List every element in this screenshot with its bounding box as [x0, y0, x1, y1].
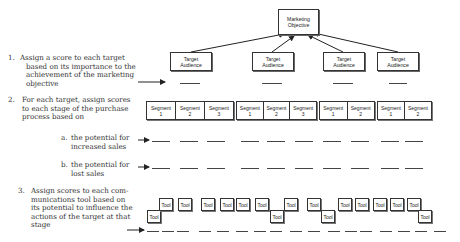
segment-cell: Segment1	[320, 102, 348, 119]
tool-box: Tool	[338, 198, 352, 211]
tool-label: Tool	[340, 202, 349, 208]
tool-box: Tool	[390, 198, 404, 211]
tool-label: Tool	[257, 202, 266, 208]
score-blank-ta-3[interactable]	[333, 83, 353, 84]
score-blank-ta-2[interactable]	[262, 83, 282, 84]
blank-3[interactable]	[162, 231, 174, 232]
marketing-objective-box: Marketing Objective	[278, 9, 319, 35]
segment-num: 1	[332, 111, 335, 117]
step-2a-line: increased sales	[71, 143, 129, 152]
segment-num: 2	[359, 111, 362, 117]
ta-line2: Audience	[262, 62, 284, 68]
blank-b[interactable]	[351, 168, 369, 169]
tool-label: Tool	[222, 202, 231, 208]
tool-box: Tool	[373, 198, 387, 211]
blank-b[interactable]	[295, 168, 313, 169]
segment-cell: Segment2	[405, 102, 431, 119]
tool-label: Tool	[286, 202, 295, 208]
segment-num: 1	[160, 111, 163, 117]
step-2-number: 2.	[8, 96, 15, 105]
tool-label: Tool	[203, 202, 212, 208]
tool-label: Tool	[180, 202, 189, 208]
tool-label: Tool	[420, 214, 429, 220]
score-blank-ta-1[interactable]	[180, 83, 200, 84]
blank-3[interactable]	[360, 231, 372, 232]
tool-box: Tool	[220, 198, 234, 211]
tool-box: Tool	[147, 210, 161, 223]
tool-box: Tool	[178, 198, 192, 211]
blank-3[interactable]	[380, 231, 392, 232]
segment-group-3: Segment1 Segment2	[319, 101, 375, 120]
tool-label: Tool	[238, 202, 247, 208]
segment-cell: Segment2	[264, 102, 291, 119]
segment-num: 2	[275, 111, 278, 117]
tool-box: Tool	[284, 198, 298, 211]
blank-3[interactable]	[290, 231, 302, 232]
blank-3[interactable]	[398, 231, 410, 232]
blank-b[interactable]	[241, 168, 259, 169]
tool-box: Tool	[307, 198, 321, 211]
blank-b[interactable]	[152, 168, 170, 169]
tool-label: Tool	[357, 202, 366, 208]
segment-num: 1	[248, 111, 251, 117]
ta-line2: Audience	[333, 62, 355, 68]
blank-3[interactable]	[199, 231, 211, 232]
step-1-line: objective	[20, 80, 136, 89]
step-3-line: stage	[31, 221, 133, 230]
step-2a-letter: a.	[61, 134, 67, 143]
step-3-number: 3.	[18, 187, 25, 196]
blank-b[interactable]	[381, 168, 399, 169]
blank-3[interactable]	[328, 231, 340, 232]
blank-a[interactable]	[381, 141, 399, 142]
blank-a[interactable]	[267, 141, 285, 142]
blank-3[interactable]	[434, 231, 446, 232]
step-2b-line: lost sales	[71, 170, 129, 179]
segment-group-2: Segment1 Segment2 Segment3	[236, 101, 317, 120]
blank-a[interactable]	[405, 141, 423, 142]
tool-label: Tool	[323, 214, 332, 220]
segment-num: 3	[218, 111, 221, 117]
blank-a[interactable]	[351, 141, 369, 142]
score-blank-ta-4[interactable]	[389, 83, 407, 84]
target-audience-box-3: Target Audience	[323, 52, 365, 71]
blank-a[interactable]	[152, 141, 170, 142]
blank-a[interactable]	[180, 141, 198, 142]
step-1-number: 1.	[8, 54, 15, 63]
tool-box: Tool	[355, 198, 369, 211]
blank-a[interactable]	[207, 141, 225, 142]
segment-cell: Segment1	[237, 102, 264, 119]
segment-num: 3	[302, 111, 305, 117]
segment-num: 1	[390, 111, 393, 117]
segment-cell: Segment1	[147, 102, 176, 119]
segment-cell: Segment2	[348, 102, 375, 119]
step-2b-letter: b.	[61, 161, 68, 170]
blank-b[interactable]	[267, 168, 285, 169]
blank-3[interactable]	[236, 231, 248, 232]
blank-3[interactable]	[270, 231, 282, 232]
segment-cell: Segment3	[205, 102, 233, 119]
blank-3[interactable]	[147, 231, 159, 232]
tool-label: Tool	[375, 202, 384, 208]
blank-b[interactable]	[323, 168, 341, 169]
segment-group-4: Segment1 Segment2	[377, 101, 432, 120]
blank-3[interactable]	[177, 231, 189, 232]
blank-a[interactable]	[295, 141, 313, 142]
blank-3[interactable]	[308, 231, 320, 232]
blank-b[interactable]	[207, 168, 225, 169]
blank-a[interactable]	[323, 141, 341, 142]
blank-3[interactable]	[254, 231, 266, 232]
tool-box: Tool	[255, 198, 269, 211]
tool-label: Tool	[272, 214, 281, 220]
tool-box: Tool	[236, 198, 250, 211]
blank-3[interactable]	[217, 231, 229, 232]
segment-num: 2	[189, 111, 192, 117]
blank-3[interactable]	[415, 231, 427, 232]
target-audience-box-1: Target Audience	[170, 52, 212, 71]
tool-box: Tool	[321, 210, 335, 223]
blank-3[interactable]	[345, 231, 357, 232]
blank-b[interactable]	[405, 168, 423, 169]
segment-cell: Segment2	[176, 102, 205, 119]
blank-a[interactable]	[241, 141, 259, 142]
target-audience-box-2: Target Audience	[252, 52, 294, 71]
blank-b[interactable]	[180, 168, 198, 169]
